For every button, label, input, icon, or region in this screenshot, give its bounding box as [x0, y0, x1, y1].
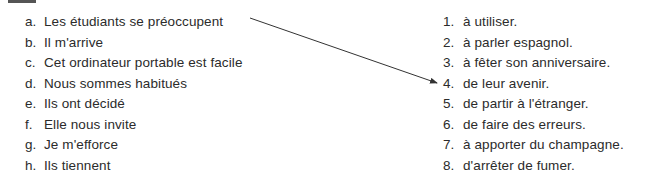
match-arrow-icon — [0, 0, 654, 176]
